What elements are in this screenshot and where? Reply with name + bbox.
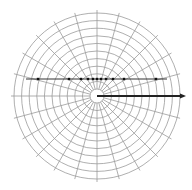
point-marker: [68, 78, 70, 80]
point-marker: [155, 78, 157, 80]
point-marker: [80, 78, 82, 80]
point-marker: [96, 78, 98, 80]
grid-spoke: [101, 102, 141, 170]
point-marker: [100, 78, 102, 80]
point-marker: [123, 78, 125, 80]
grid-spoke: [23, 100, 91, 140]
point-marker: [105, 78, 107, 80]
point-marker: [37, 78, 39, 80]
polar-grid-diagram: [0, 0, 192, 190]
grid-spoke: [103, 100, 171, 140]
arrow-head-icon: [180, 94, 186, 99]
grid-spoke: [102, 101, 158, 157]
point-marker: [112, 78, 114, 80]
grid-spoke: [54, 102, 94, 170]
grid-spoke: [102, 35, 158, 91]
grid-spoke: [23, 53, 91, 93]
grid-spoke: [103, 53, 171, 93]
point-marker: [87, 78, 89, 80]
grid-spoke: [36, 35, 92, 91]
point-marker: [92, 78, 94, 80]
grid-spoke: [36, 101, 92, 157]
